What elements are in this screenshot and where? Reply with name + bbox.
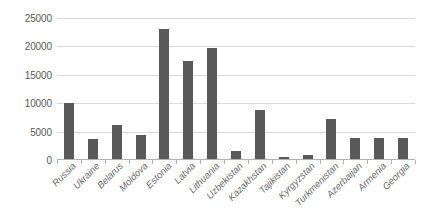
bar-azerbaijan	[350, 138, 360, 160]
bar-turkmenistan	[326, 119, 336, 160]
x-axis-labels: RussiaUkraineBelarusMoldovaEstoniaLatvia…	[57, 164, 415, 222]
y-axis-tick-label: 25000	[4, 13, 52, 24]
bar-series	[57, 18, 415, 160]
bar-russia	[64, 103, 74, 160]
tickmark	[415, 160, 416, 164]
bar-slot	[367, 18, 391, 160]
bar-slot	[319, 18, 343, 160]
bar-georgia	[398, 138, 408, 160]
bar-chart: 2500020000150001000050000 RussiaUkraineB…	[0, 0, 427, 222]
bar-slot	[176, 18, 200, 160]
bar-slot	[152, 18, 176, 160]
bar-slot	[105, 18, 129, 160]
y-axis-tick-label: 20000	[4, 41, 52, 52]
bar-slot	[224, 18, 248, 160]
bar-slot	[248, 18, 272, 160]
bar-belarus	[112, 125, 122, 160]
bar-slot	[200, 18, 224, 160]
bar-slot	[272, 18, 296, 160]
bar-slot	[391, 18, 415, 160]
bar-slot	[129, 18, 153, 160]
bar-slot	[57, 18, 81, 160]
bar-slot	[296, 18, 320, 160]
y-axis: 2500020000150001000050000	[0, 18, 52, 160]
y-axis-tick-label: 0	[4, 155, 52, 166]
x-axis-label-estonia: Estonia	[143, 160, 173, 190]
y-axis-tick-label: 15000	[4, 69, 52, 80]
bar-estonia	[159, 29, 169, 160]
bar-latvia	[183, 61, 193, 160]
bar-slot	[343, 18, 367, 160]
bar-kazakhstan	[255, 110, 265, 160]
y-axis-tick-label: 5000	[4, 126, 52, 137]
bar-ukraine	[88, 139, 98, 160]
y-axis-tick-label: 10000	[4, 98, 52, 109]
bar-moldova	[136, 135, 146, 160]
plot-area	[57, 18, 415, 160]
bar-slot	[81, 18, 105, 160]
bar-armenia	[374, 138, 384, 160]
bar-lithuania	[207, 48, 217, 160]
